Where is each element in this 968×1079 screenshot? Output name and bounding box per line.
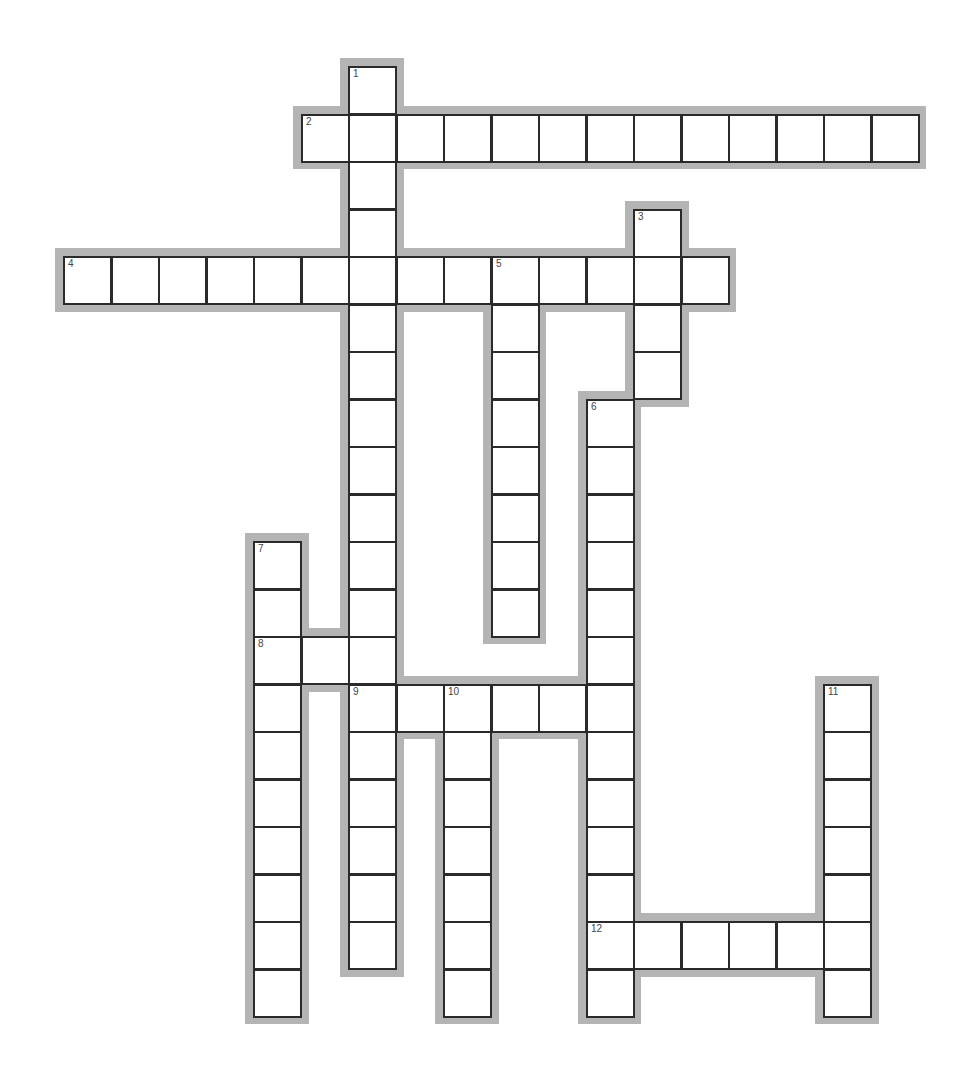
crossword-cell[interactable] — [823, 779, 872, 828]
crossword-cell[interactable] — [348, 114, 397, 163]
crossword-cell[interactable] — [491, 541, 540, 590]
crossword-cell[interactable]: 7 — [253, 541, 302, 590]
crossword-cell[interactable] — [538, 256, 587, 305]
crossword-cell[interactable] — [206, 256, 255, 305]
crossword-cell[interactable] — [491, 494, 540, 543]
crossword-cell[interactable]: 12 — [586, 921, 635, 970]
crossword-cell[interactable] — [348, 921, 397, 970]
crossword-cell[interactable] — [728, 114, 777, 163]
crossword-cell[interactable] — [823, 826, 872, 875]
crossword-cell[interactable] — [348, 399, 397, 448]
crossword-cell[interactable] — [443, 969, 492, 1018]
crossword-cell[interactable] — [491, 399, 540, 448]
crossword-cell[interactable] — [633, 256, 682, 305]
crossword-cell[interactable] — [253, 969, 302, 1018]
crossword-cell[interactable] — [681, 114, 730, 163]
crossword-cell[interactable] — [396, 114, 445, 163]
crossword-cell[interactable] — [586, 684, 635, 733]
crossword-cell[interactable] — [491, 684, 540, 733]
crossword-cell[interactable] — [348, 494, 397, 543]
crossword-cell[interactable] — [301, 636, 350, 685]
crossword-cell[interactable] — [253, 921, 302, 970]
crossword-cell[interactable] — [443, 874, 492, 923]
crossword-cell[interactable] — [633, 114, 682, 163]
crossword-cell[interactable] — [348, 161, 397, 210]
clue-number: 4 — [68, 259, 74, 269]
crossword-cell[interactable] — [443, 114, 492, 163]
crossword-cell[interactable] — [491, 589, 540, 638]
crossword-cell[interactable] — [348, 446, 397, 495]
crossword-cell[interactable] — [443, 256, 492, 305]
crossword-cell[interactable] — [491, 304, 540, 353]
crossword-cell[interactable] — [823, 731, 872, 780]
crossword-cell[interactable]: 2 — [301, 114, 350, 163]
crossword-cell[interactable] — [871, 114, 920, 163]
crossword-cell[interactable] — [823, 114, 872, 163]
crossword-cell[interactable]: 9 — [348, 684, 397, 733]
crossword-cell[interactable] — [586, 541, 635, 590]
crossword-cell[interactable] — [538, 114, 587, 163]
crossword-cell[interactable] — [633, 351, 682, 400]
crossword-cell[interactable] — [633, 304, 682, 353]
crossword-cell[interactable] — [586, 256, 635, 305]
crossword-cell[interactable] — [443, 731, 492, 780]
crossword-cell[interactable] — [253, 874, 302, 923]
crossword-cell[interactable] — [776, 921, 825, 970]
crossword-cell[interactable] — [586, 731, 635, 780]
crossword-cell[interactable] — [823, 921, 872, 970]
crossword-cell[interactable] — [491, 446, 540, 495]
crossword-cell[interactable] — [348, 209, 397, 258]
crossword-cell[interactable] — [586, 446, 635, 495]
crossword-cell[interactable] — [823, 969, 872, 1018]
crossword-cell[interactable] — [253, 731, 302, 780]
crossword-cell[interactable] — [253, 684, 302, 733]
crossword-cell[interactable] — [253, 256, 302, 305]
crossword-cell[interactable] — [253, 589, 302, 638]
crossword-cell[interactable] — [443, 921, 492, 970]
crossword-cell[interactable] — [443, 779, 492, 828]
crossword-cell[interactable]: 10 — [443, 684, 492, 733]
crossword-cell[interactable]: 4 — [63, 256, 112, 305]
crossword-cell[interactable] — [586, 874, 635, 923]
crossword-cell[interactable] — [491, 351, 540, 400]
crossword-cell[interactable]: 8 — [253, 636, 302, 685]
crossword-cell[interactable]: 5 — [491, 256, 540, 305]
crossword-cell[interactable] — [396, 684, 445, 733]
crossword-cell[interactable] — [776, 114, 825, 163]
crossword-cell[interactable] — [586, 114, 635, 163]
crossword-cell[interactable] — [823, 874, 872, 923]
crossword-cell[interactable] — [253, 826, 302, 875]
crossword-cell[interactable] — [586, 969, 635, 1018]
crossword-cell[interactable] — [348, 304, 397, 353]
crossword-cell[interactable]: 11 — [823, 684, 872, 733]
crossword-cell[interactable] — [348, 731, 397, 780]
crossword-cell[interactable] — [633, 921, 682, 970]
crossword-cell[interactable] — [348, 779, 397, 828]
crossword-cell[interactable] — [586, 636, 635, 685]
crossword-cell[interactable]: 6 — [586, 399, 635, 448]
crossword-cell[interactable] — [158, 256, 207, 305]
crossword-cell[interactable] — [301, 256, 350, 305]
crossword-cell[interactable] — [538, 684, 587, 733]
crossword-cell[interactable] — [348, 874, 397, 923]
crossword-cell[interactable] — [681, 256, 730, 305]
crossword-cell[interactable] — [348, 636, 397, 685]
crossword-cell[interactable] — [348, 351, 397, 400]
crossword-cell[interactable] — [586, 826, 635, 875]
crossword-cell[interactable] — [491, 114, 540, 163]
crossword-cell[interactable]: 1 — [348, 66, 397, 115]
crossword-cell[interactable] — [443, 826, 492, 875]
crossword-cell[interactable] — [586, 494, 635, 543]
crossword-cell[interactable] — [728, 921, 777, 970]
crossword-cell[interactable] — [348, 589, 397, 638]
crossword-cell[interactable] — [348, 826, 397, 875]
crossword-cell[interactable] — [348, 541, 397, 590]
crossword-cell[interactable] — [681, 921, 730, 970]
crossword-cell[interactable] — [586, 779, 635, 828]
crossword-cell[interactable] — [586, 589, 635, 638]
crossword-cell[interactable]: 3 — [633, 209, 682, 258]
crossword-cell[interactable] — [396, 256, 445, 305]
crossword-cell[interactable] — [348, 256, 397, 305]
crossword-cell[interactable] — [253, 779, 302, 828]
crossword-cell[interactable] — [111, 256, 160, 305]
